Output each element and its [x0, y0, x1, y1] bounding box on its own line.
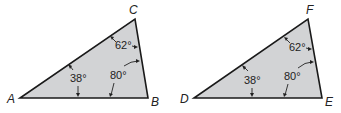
vertex-label-a: A: [6, 92, 15, 106]
similar-triangles-diagram: A B C 38° 62° 80° D E F 38° 62°: [0, 0, 341, 113]
angle-e-label: 80°: [284, 70, 301, 82]
vertex-label-f: F: [306, 3, 314, 17]
triangle-abc: A B C 38° 62° 80°: [6, 3, 159, 109]
vertex-label-e: E: [325, 95, 334, 109]
triangle-abc-shape: [20, 19, 148, 98]
vertex-label-c: C: [129, 3, 138, 17]
angle-b-label: 80°: [110, 69, 127, 81]
triangle-def-shape: [194, 19, 322, 98]
angle-c-label: 62°: [115, 39, 132, 51]
angle-a-label: 38°: [70, 72, 87, 84]
vertex-label-b: B: [151, 95, 159, 109]
angle-d-label: 38°: [244, 74, 261, 86]
triangle-def: D E F 38° 62° 80°: [180, 3, 334, 109]
angle-f-label: 62°: [289, 41, 306, 53]
vertex-label-d: D: [180, 92, 189, 106]
